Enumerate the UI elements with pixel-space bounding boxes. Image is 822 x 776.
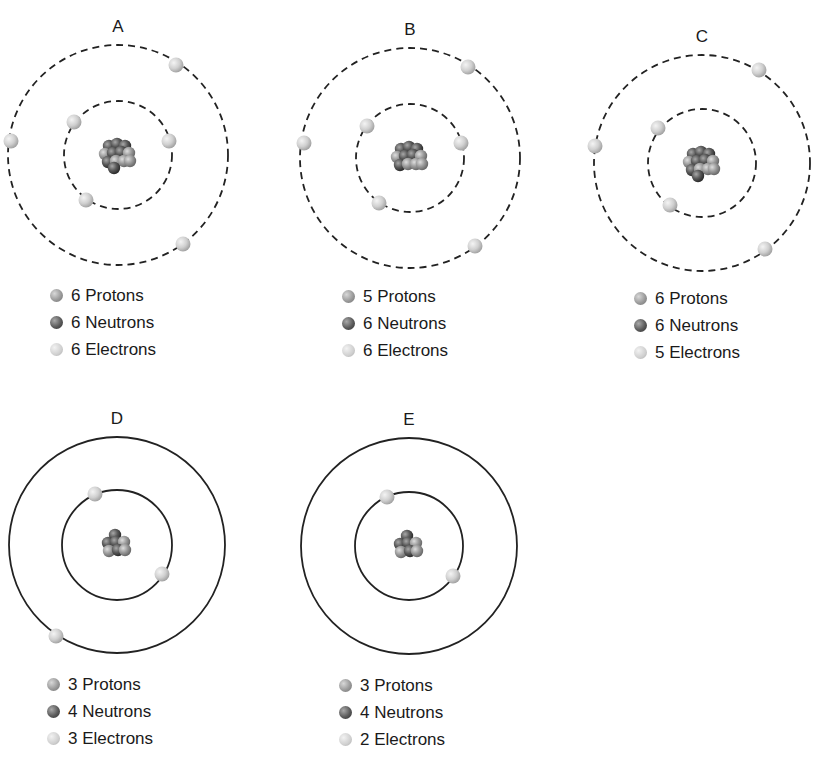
proton-icon xyxy=(339,679,352,692)
electron-icon xyxy=(79,193,94,208)
electron-icon xyxy=(4,134,19,149)
atom-a: A xyxy=(4,17,229,265)
atom-models-diagram: ABCDE xyxy=(0,0,822,776)
atom-c-legend: 6 Protons 6 Neutrons 5 Electrons xyxy=(634,285,740,366)
atom-d: D xyxy=(9,409,225,653)
legend-electrons: 6 Electrons xyxy=(50,336,156,363)
electron-icon xyxy=(176,237,191,252)
atom-a-legend: 6 Protons 6 Neutrons 6 Electrons xyxy=(50,282,156,363)
legend-neutrons: 4 Neutrons xyxy=(47,698,153,725)
electron-icon xyxy=(360,119,375,134)
electron-icon xyxy=(297,136,312,151)
electron-icon xyxy=(49,629,64,644)
legend-neutrons: 4 Neutrons xyxy=(339,699,445,726)
electron-icon xyxy=(663,198,678,213)
atom-label: B xyxy=(404,20,415,39)
nucleus xyxy=(99,138,136,174)
electron-icon xyxy=(752,63,767,78)
neutron-icon xyxy=(692,170,704,182)
atom-label: C xyxy=(696,27,708,46)
nucleus xyxy=(391,141,428,171)
legend-electrons: 5 Electrons xyxy=(634,339,740,366)
neutron-icon xyxy=(339,706,352,719)
atom-label: D xyxy=(111,409,123,428)
atom-b-legend: 5 Protons 6 Neutrons 6 Electrons xyxy=(342,283,448,364)
electron-icon xyxy=(454,136,469,151)
electron-icon xyxy=(155,567,170,582)
nucleus xyxy=(102,529,131,557)
electron-icon xyxy=(651,121,666,136)
electron-icon xyxy=(50,343,63,356)
legend-protons: 6 Protons xyxy=(50,282,156,309)
electron-icon xyxy=(446,569,461,584)
proton-icon xyxy=(47,678,60,691)
legend-protons: 6 Protons xyxy=(634,285,740,312)
proton-icon xyxy=(411,545,423,557)
nucleus xyxy=(683,146,720,182)
atom-e: E xyxy=(301,410,517,654)
electron-icon xyxy=(380,490,395,505)
atom-e-legend: 3 Protons 4 Neutrons 2 Electrons xyxy=(339,672,445,753)
electron-icon xyxy=(47,732,60,745)
electron-icon xyxy=(461,60,476,75)
legend-neutrons: 6 Neutrons xyxy=(342,310,448,337)
electron-icon xyxy=(588,139,603,154)
neutron-icon xyxy=(108,162,120,174)
electron-icon xyxy=(758,242,773,257)
proton-icon xyxy=(50,289,63,302)
atom-c: C xyxy=(588,27,811,271)
electron-icon xyxy=(342,344,355,357)
legend-protons: 3 Protons xyxy=(339,672,445,699)
electron-icon xyxy=(372,196,387,211)
atom-d-legend: 3 Protons 4 Neutrons 3 Electrons xyxy=(47,671,153,752)
electron-icon xyxy=(468,239,483,254)
legend-protons: 3 Protons xyxy=(47,671,153,698)
electron-icon xyxy=(162,134,177,149)
proton-icon xyxy=(119,544,131,556)
electron-icon xyxy=(339,733,352,746)
neutron-icon xyxy=(50,316,63,329)
atom-b: B xyxy=(297,20,521,268)
proton-icon xyxy=(708,163,720,175)
legend-electrons: 6 Electrons xyxy=(342,337,448,364)
legend-protons: 5 Protons xyxy=(342,283,448,310)
atom-label: E xyxy=(403,410,414,429)
legend-electrons: 2 Electrons xyxy=(339,726,445,753)
legend-electrons: 3 Electrons xyxy=(47,725,153,752)
legend-neutrons: 6 Neutrons xyxy=(50,309,156,336)
electron-icon xyxy=(169,58,184,73)
electron-icon xyxy=(88,487,103,502)
neutron-icon xyxy=(342,317,355,330)
proton-icon xyxy=(634,292,647,305)
proton-icon xyxy=(416,158,428,170)
proton-icon xyxy=(124,155,136,167)
neutron-icon xyxy=(634,319,647,332)
electron-icon xyxy=(634,346,647,359)
proton-icon xyxy=(342,290,355,303)
legend-neutrons: 6 Neutrons xyxy=(634,312,740,339)
neutron-icon xyxy=(47,705,60,718)
atom-label: A xyxy=(112,17,124,36)
nucleus xyxy=(394,530,423,558)
electron-icon xyxy=(67,115,82,130)
